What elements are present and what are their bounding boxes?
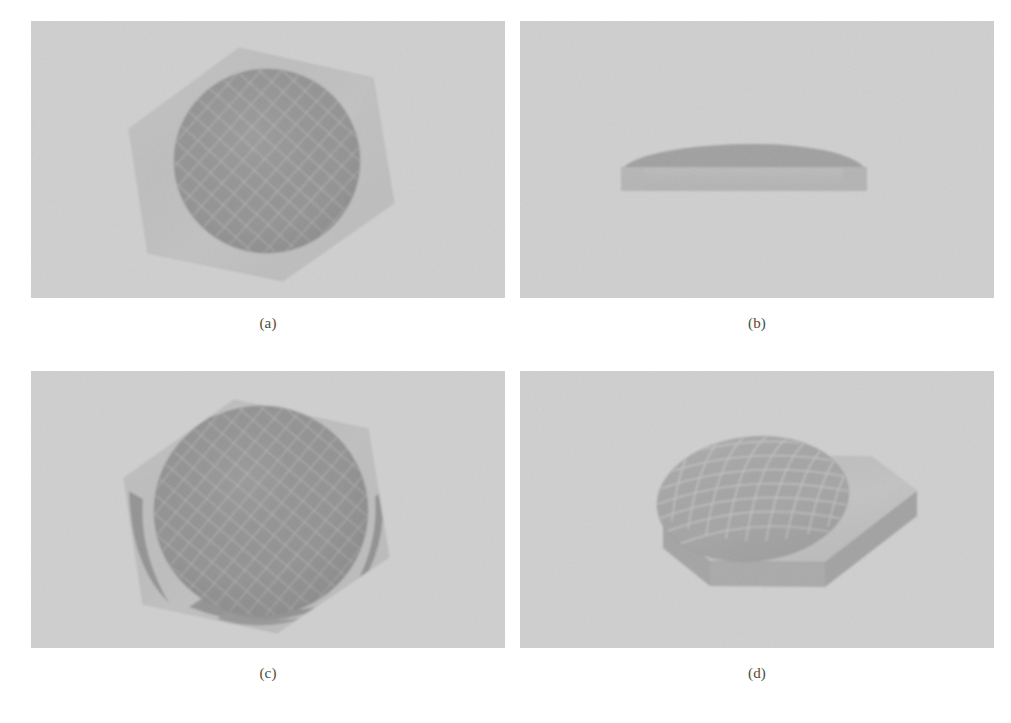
figure-panels: (a): [0, 0, 1011, 723]
panel-label-b: (b): [520, 315, 994, 332]
panel-d-image: [520, 371, 994, 648]
panel-a-image: [31, 21, 505, 298]
panel-label-a: (a): [31, 315, 505, 332]
panel-a: [31, 21, 505, 298]
panel-b-image: [520, 21, 994, 298]
panel-d: [520, 371, 994, 648]
panel-b: [520, 21, 994, 298]
panel-c-image: [31, 371, 505, 648]
panel-label-c: (c): [31, 665, 505, 682]
panel-c: [31, 371, 505, 648]
panel-label-d: (d): [520, 665, 994, 682]
